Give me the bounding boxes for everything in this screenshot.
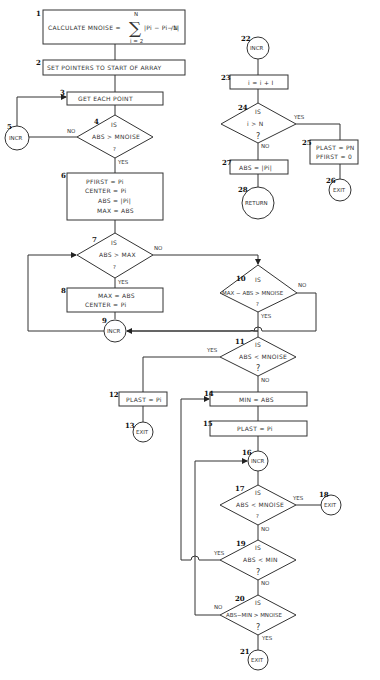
svg-text:?: ?: [113, 146, 116, 152]
svg-text:ABS > MAX: ABS > MAX: [99, 251, 136, 258]
svg-text:2: 2: [36, 58, 41, 67]
svg-text:N: N: [134, 11, 138, 17]
svg-text:?: ?: [113, 264, 116, 270]
decision-abs-minus-min: 20 IS ABS−MIN > MNOISE ? NO YES: [214, 594, 296, 641]
svg-text:?: ?: [256, 623, 260, 632]
process-plast-pn: 25 PLAST = PN PFIRST = 0: [302, 138, 358, 164]
svg-text:4: 4: [94, 117, 99, 126]
svg-text:RETURN: RETURN: [245, 200, 268, 206]
svg-text:MAX = ABS: MAX = ABS: [97, 207, 134, 214]
svg-text:YES: YES: [213, 550, 225, 556]
sigma-symbol: ∑: [129, 18, 141, 38]
svg-text:?: ?: [256, 568, 260, 577]
svg-text:26: 26: [326, 176, 336, 185]
decision-abs-lt-mnoise-17: 17 IS ABS < MNOISE ? YES NO: [220, 484, 304, 532]
svg-text:GET EACH POINT: GET EACH POINT: [78, 95, 133, 102]
svg-text:13: 13: [125, 421, 135, 430]
svg-text:INCR: INCR: [107, 328, 121, 334]
svg-text:NO: NO: [261, 377, 270, 383]
svg-text:NO: NO: [261, 526, 270, 532]
svg-text:CENTER = Pi: CENTER = Pi: [85, 187, 126, 194]
svg-text:NO: NO: [298, 282, 307, 288]
svg-text:NO: NO: [261, 143, 270, 149]
terminal-return: 28 RETURN: [238, 185, 274, 219]
svg-text:YES: YES: [293, 114, 305, 120]
process-abs-pi: 27 ABS = |Pi|: [222, 158, 288, 174]
svg-text:MAX − ABS > MNOISE: MAX − ABS > MNOISE: [222, 290, 284, 296]
svg-text:?: ?: [256, 132, 260, 141]
svg-text:IS: IS: [255, 544, 261, 551]
connector-incr-16: 16 INCR: [242, 448, 268, 471]
svg-text:ABS−MIN > MNOISE: ABS−MIN > MNOISE: [226, 612, 282, 618]
svg-text:8: 8: [61, 286, 66, 295]
flowchart-canvas: 1 CALCULATE MNOISE = ∑ N i = 2 |Pi − Pi−…: [0, 0, 380, 680]
svg-text:11: 11: [235, 337, 245, 346]
process-i-increment: 23 i = i + I: [221, 73, 288, 89]
svg-text:INCR: INCR: [251, 458, 265, 464]
process-plast-15: 15 PLAST = Pi: [203, 419, 307, 436]
process-get-each-point: 3 GET EACH POINT: [60, 88, 163, 105]
svg-text:6: 6: [61, 171, 66, 180]
svg-text:ABS < MIN: ABS < MIN: [243, 556, 278, 563]
svg-text:CALCULATE MNOISE =: CALCULATE MNOISE =: [48, 24, 121, 31]
svg-text:YES: YES: [261, 635, 273, 641]
svg-text:10: 10: [236, 274, 246, 283]
svg-text:17: 17: [235, 484, 245, 493]
svg-text:ABS > MNOISE: ABS > MNOISE: [92, 133, 140, 140]
process-min-abs: 14 MIN = ABS: [204, 389, 307, 406]
svg-text:SET POINTERS TO START OF: SET POINTERS TO START OF ARRAY: [47, 64, 161, 71]
svg-text:YES: YES: [117, 159, 129, 165]
svg-text:19: 19: [236, 539, 246, 548]
connector-incr-5: 5 INCR: [5, 122, 29, 150]
svg-text:IS: IS: [255, 108, 261, 115]
decision-abs-lt-mnoise-11: 11 IS ABS < MNOISE ? YES NO: [206, 337, 296, 383]
decision-abs-gt-max: 7 IS ABS > MAX ? NO YES: [77, 233, 163, 285]
svg-text:NO: NO: [154, 245, 163, 251]
svg-text:7: 7: [92, 235, 97, 244]
svg-text:ABS < MNOISE: ABS < MNOISE: [236, 501, 284, 508]
process-init-values: 6 PFIRST = Pi CENTER = Pi ABS = |Pi| MAX…: [61, 171, 163, 220]
connector-incr-22: 22 INCR: [241, 34, 269, 59]
svg-text:9: 9: [102, 316, 107, 325]
svg-text:EXIT: EXIT: [136, 429, 149, 435]
svg-text:?: ?: [256, 301, 259, 307]
svg-text:CENTER = Pi: CENTER = Pi: [85, 301, 126, 308]
svg-text:28: 28: [238, 185, 248, 194]
svg-text:IS: IS: [255, 276, 261, 283]
svg-text:20: 20: [235, 594, 245, 603]
svg-text:YES: YES: [117, 279, 129, 285]
terminal-exit-18: 18 EXIT: [319, 490, 341, 515]
svg-text:YES: YES: [260, 313, 272, 319]
svg-text:27: 27: [222, 158, 232, 167]
svg-text:IS: IS: [111, 121, 117, 128]
svg-text:ABS = |Pi|: ABS = |Pi|: [98, 197, 131, 205]
svg-text:IS: IS: [111, 239, 117, 246]
svg-text:YES: YES: [206, 347, 218, 353]
svg-text:12: 12: [109, 390, 119, 399]
svg-text:ABS < MNOISE: ABS < MNOISE: [239, 353, 287, 360]
svg-text:NO: NO: [261, 580, 270, 586]
svg-text:i = i + I: i = i + I: [248, 79, 274, 86]
svg-text:PLAST = Pi: PLAST = Pi: [237, 425, 273, 432]
svg-text:INCR: INCR: [9, 135, 23, 141]
svg-text:EXIT: EXIT: [333, 187, 346, 193]
process-plast-12: 12 PLAST = Pi: [109, 390, 167, 406]
connector-incr-9: 9 INCR: [102, 316, 126, 342]
svg-text:16: 16: [242, 448, 252, 457]
svg-text:1: 1: [36, 9, 41, 18]
svg-text:IS: IS: [255, 489, 261, 496]
terminal-exit-13: 13 EXIT: [125, 421, 153, 442]
decision-max-minus-abs: 10 IS MAX − ABS > MNOISE ? NO YES: [220, 265, 307, 319]
process-set-pointers: 2 SET POINTERS TO START OF ARRAY: [36, 58, 185, 75]
svg-text:MAX = ABS: MAX = ABS: [98, 292, 135, 299]
decision-i-gt-n: 24 IS i > N ? YES NO: [221, 103, 305, 149]
process-calculate-mnoise: 1 CALCULATE MNOISE = ∑ N i = 2 |Pi − Pi−…: [36, 9, 185, 44]
decision-abs-gt-mnoise: 4 IS ABS > MNOISE ? NO YES: [67, 115, 153, 165]
svg-text:3: 3: [60, 88, 65, 97]
svg-text:MIN = ABS: MIN = ABS: [239, 396, 274, 403]
svg-text:ABS = |Pi|: ABS = |Pi|: [239, 164, 272, 172]
svg-text:IS: IS: [255, 341, 261, 348]
svg-text:24: 24: [238, 103, 248, 112]
svg-text:21: 21: [240, 647, 250, 656]
svg-text:23: 23: [221, 73, 231, 82]
